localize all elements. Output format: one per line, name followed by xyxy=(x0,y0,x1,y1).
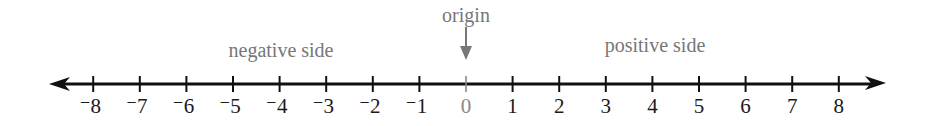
tick-label: ⁻1 xyxy=(406,94,428,118)
tick-label: 6 xyxy=(740,94,751,118)
tick-label: ⁻8 xyxy=(79,94,101,118)
tick-label: ⁻2 xyxy=(359,94,381,118)
negative-side-label: negative side xyxy=(229,39,334,62)
tick-label: ⁻7 xyxy=(126,94,148,118)
tick-label: 5 xyxy=(694,94,705,118)
tick-label: ⁻5 xyxy=(219,94,241,118)
tick-label: ⁻4 xyxy=(266,94,288,118)
tick-label: 1 xyxy=(507,94,518,118)
tick-label: 0 xyxy=(461,94,472,118)
positive-side-label: positive side xyxy=(605,34,706,57)
tick-label: 7 xyxy=(787,94,798,118)
tick-label: 3 xyxy=(601,94,612,118)
tick-label: 2 xyxy=(554,94,565,118)
origin-arrow-icon xyxy=(460,27,472,60)
tick-label: ⁻3 xyxy=(312,94,334,118)
tick-group: ⁻8⁻7⁻6⁻5⁻4⁻3⁻2⁻1012345678 xyxy=(79,76,844,118)
tick-label: 4 xyxy=(647,94,658,118)
tick-label: 8 xyxy=(834,94,845,118)
tick-label: ⁻6 xyxy=(173,94,195,118)
number-line-diagram: origin negative side positive side ⁻8⁻7⁻… xyxy=(0,0,925,126)
origin-label: origin xyxy=(442,4,490,27)
